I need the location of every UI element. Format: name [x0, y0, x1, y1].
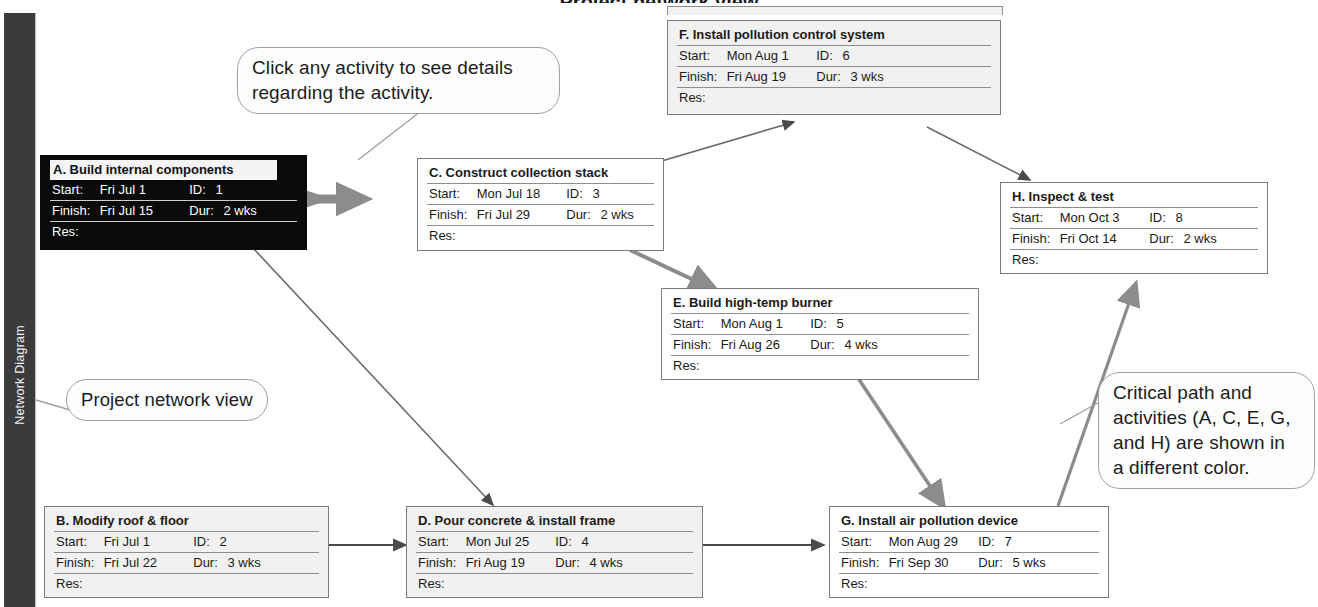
activity-node-A-id: 1: [216, 182, 223, 197]
activity-node-G-dur: 5 wks: [1012, 555, 1045, 570]
activity-node-E-id: 5: [837, 316, 844, 331]
activity-node-F-id: 6: [843, 48, 850, 63]
activity-node-G-res-row: Res:: [839, 574, 1099, 594]
label-dur: Dur:: [555, 555, 580, 570]
label-id: ID:: [816, 48, 833, 63]
activity-node-H-finish-row: Finish: Fri Oct 14 Dur: 2 wks: [1010, 229, 1258, 250]
label-dur: Dur:: [193, 555, 218, 570]
activity-node-A-title: A. Build internal components: [50, 160, 277, 180]
activity-node-A-start: Fri Jul 1: [100, 182, 186, 198]
activity-node-G-finish: Fri Sep 30: [889, 555, 975, 571]
callout-leader-click-activity: [358, 108, 425, 160]
label-id: ID:: [193, 534, 210, 549]
label-id: ID:: [810, 316, 827, 331]
label-finish: Finish:: [56, 555, 100, 571]
activity-node-H-dur: 2 wks: [1183, 231, 1216, 246]
label-start: Start:: [673, 316, 717, 332]
activity-node-E-start: Mon Aug 1: [721, 316, 807, 332]
activity-node-D[interactable]: D. Pour concrete & install frame Start: …: [406, 506, 703, 598]
activity-node-E-title: E. Build high-temp burner: [671, 293, 969, 314]
activity-node-B-title: B. Modify roof & floor: [54, 511, 319, 532]
callout-critical-path: Critical path and activities (A, C, E, G…: [1098, 372, 1315, 489]
label-finish: Finish:: [1012, 231, 1056, 247]
activity-node-C-start: Mon Jul 18: [477, 186, 563, 202]
activity-node-D-finish-row: Finish: Fri Aug 19 Dur: 4 wks: [416, 553, 693, 574]
activity-node-C-finish: Fri Jul 29: [477, 207, 563, 223]
label-dur: Dur:: [1149, 231, 1174, 246]
activity-node-E[interactable]: E. Build high-temp burner Start: Mon Aug…: [661, 288, 979, 380]
label-finish: Finish:: [418, 555, 462, 571]
activity-node-A[interactable]: A. Build internal components Start: Fri …: [40, 155, 307, 250]
activity-node-E-start-row: Start: Mon Aug 1 ID: 5: [671, 314, 969, 335]
activity-node-C-start-row: Start: Mon Jul 18 ID: 3: [427, 184, 654, 205]
label-id: ID:: [189, 182, 206, 197]
activity-node-B-finish-row: Finish: Fri Jul 22 Dur: 3 wks: [54, 553, 319, 574]
activity-node-H[interactable]: H. Inspect & test Start: Mon Oct 3 ID: 8…: [1000, 182, 1268, 274]
top-frame-edge: [667, 6, 1003, 15]
activity-node-A-finish: Fri Jul 15: [100, 203, 186, 219]
label-dur: Dur:: [189, 203, 214, 218]
activity-node-B-dur: 3 wks: [227, 555, 260, 570]
activity-node-F-res-row: Res:: [677, 88, 991, 108]
activity-node-F-start: Mon Aug 1: [727, 48, 813, 64]
activity-node-A-res-row: Res:: [50, 222, 297, 242]
label-start: Start:: [1012, 210, 1056, 226]
activity-node-C-res-row: Res:: [427, 226, 654, 246]
activity-node-E-dur: 4 wks: [844, 337, 877, 352]
label-res: Res:: [418, 576, 445, 591]
activity-node-G-title: G. Install air pollution device: [839, 511, 1099, 532]
activity-node-B-start-row: Start: Fri Jul 1 ID: 2: [54, 532, 319, 553]
label-res: Res:: [1012, 252, 1039, 267]
activity-node-G-finish-row: Finish: Fri Sep 30 Dur: 5 wks: [839, 553, 1099, 574]
activity-node-E-finish: Fri Aug 26: [721, 337, 807, 353]
label-finish: Finish:: [673, 337, 717, 353]
activity-node-A-start-row: Start: Fri Jul 1 ID: 1: [50, 180, 297, 201]
edge-C-to-F: [648, 122, 794, 165]
edge-F-to-H: [927, 127, 1030, 180]
activity-node-F-finish: Fri Aug 19: [727, 69, 813, 85]
activity-node-C-finish-row: Finish: Fri Jul 29 Dur: 2 wks: [427, 205, 654, 226]
label-id: ID:: [1149, 210, 1166, 225]
label-start: Start:: [418, 534, 462, 550]
activity-node-D-start: Mon Jul 25: [466, 534, 552, 550]
edge-A-to-C: [305, 190, 368, 208]
label-start: Start:: [52, 182, 96, 198]
activity-node-C-title: C. Construct collection stack: [427, 163, 654, 184]
activity-node-D-res-row: Res:: [416, 574, 693, 594]
label-dur: Dur:: [816, 69, 841, 84]
activity-node-E-res-row: Res:: [671, 356, 969, 376]
activity-node-G[interactable]: G. Install air pollution device Start: M…: [829, 506, 1109, 598]
label-res: Res:: [673, 358, 700, 373]
activity-node-H-start-row: Start: Mon Oct 3 ID: 8: [1010, 208, 1258, 229]
label-finish: Finish:: [841, 555, 885, 571]
label-id: ID:: [978, 534, 995, 549]
activity-node-C-dur: 2 wks: [600, 207, 633, 222]
activity-node-B[interactable]: B. Modify roof & floor Start: Fri Jul 1 …: [44, 506, 329, 598]
activity-node-B-res-row: Res:: [54, 574, 319, 594]
label-id: ID:: [555, 534, 572, 549]
label-res: Res:: [52, 224, 79, 239]
activity-node-F-start-row: Start: Mon Aug 1 ID: 6: [677, 46, 991, 67]
edge-E-to-G: [858, 378, 944, 507]
page-title: Project network view: [0, 0, 1318, 3]
label-start: Start:: [679, 48, 723, 64]
label-res: Res:: [679, 90, 706, 105]
label-res: Res:: [56, 576, 83, 591]
label-finish: Finish:: [679, 69, 723, 85]
label-start: Start:: [429, 186, 473, 202]
activity-node-E-finish-row: Finish: Fri Aug 26 Dur: 4 wks: [671, 335, 969, 356]
sidebar-tab-network-diagram[interactable]: Network Diagram: [4, 13, 35, 607]
activity-node-C[interactable]: C. Construct collection stack Start: Mon…: [417, 158, 664, 251]
activity-node-C-id: 3: [593, 186, 600, 201]
activity-node-D-start-row: Start: Mon Jul 25 ID: 4: [416, 532, 693, 553]
activity-node-D-title: D. Pour concrete & install frame: [416, 511, 693, 532]
callout-project-network-view: Project network view: [66, 379, 268, 421]
activity-node-F[interactable]: F. Install pollution control system Star…: [667, 20, 1001, 115]
activity-node-G-start: Mon Aug 29: [889, 534, 975, 550]
activity-node-F-title: F. Install pollution control system: [677, 25, 991, 46]
label-id: ID:: [566, 186, 583, 201]
activity-node-F-dur: 3 wks: [850, 69, 883, 84]
activity-node-H-res-row: Res:: [1010, 250, 1258, 270]
activity-node-A-dur: 2 wks: [223, 203, 256, 218]
activity-node-A-finish-row: Finish: Fri Jul 15 Dur: 2 wks: [50, 201, 297, 222]
